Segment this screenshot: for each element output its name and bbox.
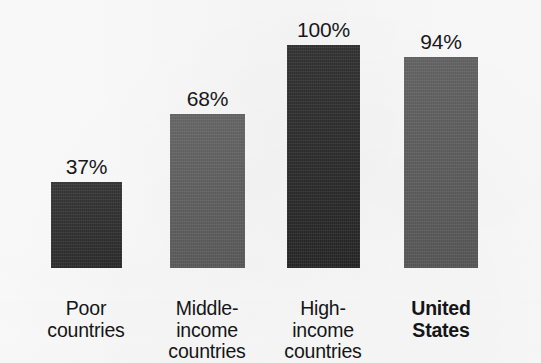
category-label-2-line-3: countries [143,341,271,363]
plot-area: 37%Poorcountries68%Middle-incomecountrie… [0,0,541,363]
bar-value-label-3: 100% [287,19,360,40]
category-label-2-line-2: income [143,320,271,342]
category-label-4: UnitedStates [377,298,505,341]
bar-chart: 37%Poorcountries68%Middle-incomecountrie… [0,0,541,363]
category-label-2-line-1: Middle- [143,298,271,320]
category-label-1-line-1: Poor [22,298,150,320]
category-label-4-line-1: United [377,298,505,320]
category-label-3-line-2: income [259,320,387,342]
category-label-3-line-3: countries [259,341,387,363]
bar-value-label-1: 37% [51,156,122,177]
category-label-1-line-2: countries [22,320,150,342]
category-label-1: Poorcountries [22,298,150,341]
bar-value-label-2: 68% [170,88,245,109]
bar-1 [51,182,122,268]
category-label-2: Middle-incomecountries [143,298,271,363]
category-label-3-line-1: High- [259,298,387,320]
bar-value-label-4: 94% [404,31,478,52]
bar-2 [170,114,245,268]
bar-3 [287,45,360,268]
bar-4 [404,57,478,268]
category-label-3: High-incomecountries [259,298,387,363]
category-label-4-line-2: States [377,320,505,342]
